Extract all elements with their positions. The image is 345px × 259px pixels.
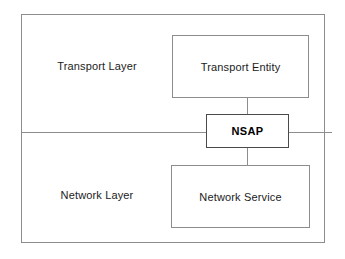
diagram-canvas: Transport Layer Transport Entity NSAP Ne… bbox=[0, 0, 345, 259]
node-network-service-label: Network Service bbox=[199, 191, 281, 203]
nsap-box: NSAP bbox=[206, 114, 289, 148]
connector-nsap-to-network-service bbox=[247, 147, 248, 166]
layer-label-transport: Transport Layer bbox=[26, 60, 168, 72]
layer-label-network: Network Layer bbox=[26, 189, 168, 201]
node-transport-entity: Transport Entity bbox=[172, 35, 309, 98]
connector-transport-entity-to-nsap bbox=[247, 98, 248, 115]
node-transport-entity-label: Transport Entity bbox=[201, 61, 281, 73]
nsap-label: NSAP bbox=[231, 125, 263, 137]
node-network-service: Network Service bbox=[171, 165, 310, 228]
